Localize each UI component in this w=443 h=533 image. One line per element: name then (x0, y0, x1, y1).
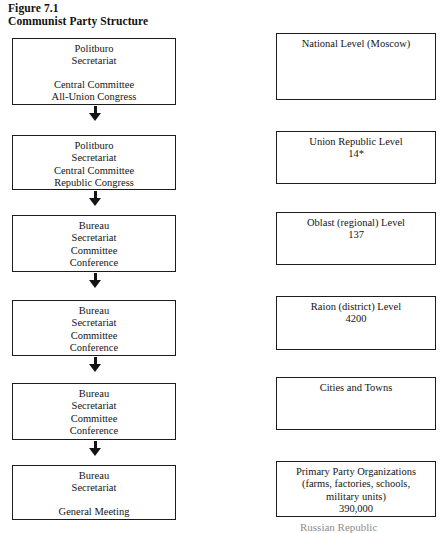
box-line: Conference (13, 257, 175, 269)
box-line: Oblast (regional) Level (277, 217, 435, 229)
admin-level-box-cities: Cities and Towns (276, 377, 436, 430)
party-organ-box-primary: Bureau Secretariat General Meeting (12, 465, 176, 520)
connector-arrow-2 (89, 191, 102, 206)
box-line-spacer (13, 495, 175, 506)
party-organ-box-cities: Bureau Secretariat Committee Conference (12, 383, 176, 440)
admin-level-box-national: National Level (Moscow) (276, 33, 436, 100)
box-line: General Meeting (13, 506, 175, 518)
connector-arrow-3 (89, 273, 102, 288)
party-organ-box-union-republic: Politburo Secretariat Central Committee … (12, 135, 176, 190)
box-line: Secretariat (13, 482, 175, 494)
box-line: National Level (Moscow) (277, 38, 435, 50)
footnote-text: Russian Republic (300, 523, 377, 533)
cropped-footnote: Russian Republic (300, 523, 443, 533)
party-organ-box-oblast: Bureau Secretariat Committee Conference (12, 215, 176, 272)
box-line: Committee (13, 330, 175, 342)
box-line: Bureau (13, 220, 175, 232)
box-line: Politburo (13, 140, 175, 152)
connector-arrow-1 (89, 106, 102, 121)
box-line: Central Committee (13, 79, 175, 91)
box-count: 14* (277, 148, 435, 160)
box-line: Conference (13, 425, 175, 437)
party-structure-diagram: Politburo Secretariat Central Committee … (0, 0, 443, 533)
box-line: All-Union Congress (13, 91, 175, 103)
admin-level-box-primary: Primary Party Organizations (farms, fact… (276, 461, 436, 517)
box-line: military units) (277, 491, 435, 503)
box-line: Primary Party Organizations (277, 466, 435, 478)
arrow-head-icon (89, 113, 101, 121)
arrow-head-icon (89, 198, 101, 206)
box-line: Secretariat (13, 55, 175, 67)
arrow-head-icon (89, 448, 101, 456)
box-line: Central Committee (13, 165, 175, 177)
connector-arrow-4 (89, 357, 102, 372)
box-line-spacer (13, 68, 175, 79)
admin-level-box-union-republic: Union Republic Level 14* (276, 131, 436, 184)
box-line: Raion (district) Level (277, 301, 435, 313)
party-organ-box-national: Politburo Secretariat Central Committee … (12, 38, 176, 105)
box-count: 4200 (277, 313, 435, 325)
connector-arrow-5 (89, 441, 102, 456)
box-line: Secretariat (13, 232, 175, 244)
box-line: Politburo (13, 43, 175, 55)
box-line: Committee (13, 413, 175, 425)
box-line: Committee (13, 245, 175, 257)
admin-level-box-oblast: Oblast (regional) Level 137 (276, 212, 436, 265)
box-line: Bureau (13, 470, 175, 482)
box-line: Cities and Towns (277, 382, 435, 394)
arrow-head-icon (89, 280, 101, 288)
arrow-head-icon (89, 364, 101, 372)
box-line: Bureau (13, 388, 175, 400)
box-line: Secretariat (13, 152, 175, 164)
box-line: Republic Congress (13, 177, 175, 189)
box-line: Conference (13, 342, 175, 354)
box-count: 390,000 (277, 503, 435, 515)
box-line: Bureau (13, 305, 175, 317)
box-line: Secretariat (13, 400, 175, 412)
box-line: (farms, factories, schools, (277, 478, 435, 490)
box-line: Union Republic Level (277, 136, 435, 148)
box-count: 137 (277, 229, 435, 241)
box-line: Secretariat (13, 317, 175, 329)
party-organ-box-raion: Bureau Secretariat Committee Conference (12, 300, 176, 356)
admin-level-box-raion: Raion (district) Level 4200 (276, 296, 436, 350)
